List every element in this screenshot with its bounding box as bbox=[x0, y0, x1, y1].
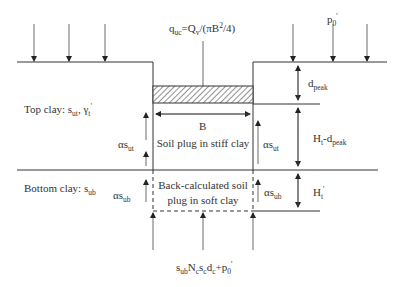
soft-plug-label-2: plug in soft clay bbox=[167, 194, 239, 206]
ht-minus-dpeak-label: Ht-dpeak bbox=[313, 132, 347, 147]
shear-label-top-right: αsut bbox=[263, 138, 280, 153]
hatched-load-plate bbox=[153, 86, 253, 103]
surcharge-label: p0' bbox=[327, 12, 338, 28]
diagram-canvas: p0' quc=Qv/(πB2/4) B Soil plug in stiff … bbox=[0, 0, 401, 287]
load-label: quc=Qv/(πB2/4) bbox=[169, 21, 235, 37]
shear-label-bottom-right: αsub bbox=[264, 186, 282, 201]
bottom-clay-label: Bottom clay: sub bbox=[24, 182, 96, 197]
ht-prime-label: Ht' bbox=[313, 185, 325, 201]
width-label: B bbox=[199, 120, 206, 132]
surcharge-arrows-right bbox=[293, 24, 367, 61]
dpeak-label: dpeak bbox=[308, 77, 328, 92]
stiff-plug-label: Soil plug in stiff clay bbox=[157, 137, 250, 149]
surcharge-arrows-left bbox=[34, 24, 105, 61]
shear-label-bottom-left: αsub bbox=[113, 189, 131, 204]
soft-plug-label-1: Back-calculated soil bbox=[158, 179, 248, 191]
base-resistance-label: subNcscdc+p0' bbox=[176, 260, 233, 276]
base-resistance-arrows bbox=[153, 213, 253, 250]
top-clay-label: Top clay: sut, γt' bbox=[24, 102, 92, 118]
shear-label-top-left: αsut bbox=[118, 138, 135, 153]
